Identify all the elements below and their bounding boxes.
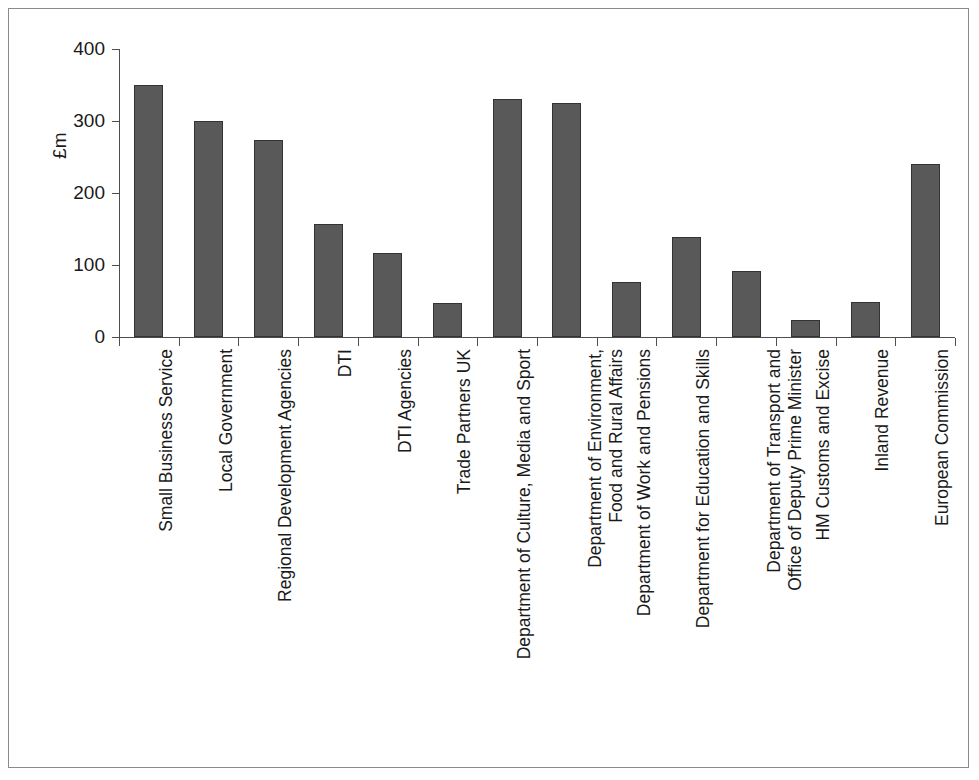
figure-frame: £m 0100200300400 Small Business ServiceL… — [8, 8, 969, 768]
bar-chart: £m 0100200300400 Small Business ServiceL… — [9, 9, 970, 769]
x-axis-category-label: DTI Agencies — [395, 349, 416, 453]
x-axis-tick-mark — [358, 338, 359, 346]
x-axis-tick-mark — [238, 338, 239, 346]
x-axis-tick-mark — [477, 338, 478, 346]
plot-area — [119, 49, 954, 337]
x-axis-tick-mark — [955, 338, 956, 346]
x-axis-category-label: HM Customs and Excise — [813, 349, 834, 541]
x-axis-tick-mark — [298, 338, 299, 346]
bar[interactable] — [373, 253, 402, 337]
bar[interactable] — [552, 103, 581, 337]
y-axis-tick-label: 0 — [59, 327, 105, 346]
x-axis-tick-mark — [656, 338, 657, 346]
x-axis-category-label-line: Local Government — [216, 349, 236, 492]
x-axis-category-label: Department of Culture, Media and Sport — [514, 349, 535, 659]
x-axis-category-label-line: Department for Education and Skills — [693, 349, 713, 628]
x-axis-category-label: Inland Revenue — [872, 349, 893, 472]
x-axis-category-label: Small Business Service — [156, 349, 177, 532]
x-axis-category-label-line: Department of Environment, — [585, 349, 605, 568]
x-axis-category-label-line: Small Business Service — [156, 349, 176, 532]
bar[interactable] — [194, 121, 223, 337]
x-axis-category-label-line: European Commission — [932, 349, 952, 526]
x-axis-category-label: Local Government — [216, 349, 237, 492]
x-axis-tick-mark — [716, 338, 717, 346]
x-axis-category-label: DTI — [335, 349, 356, 377]
x-axis-category-label-line: Trade Partners UK — [454, 349, 474, 494]
y-axis-tick-label: 400 — [59, 39, 105, 58]
bar[interactable] — [911, 164, 940, 337]
x-axis-tick-mark — [537, 338, 538, 346]
bar[interactable] — [672, 237, 701, 337]
x-axis-category-label-line: DTI — [335, 349, 355, 377]
x-axis-category-labels: Small Business ServiceLocal GovernmentRe… — [119, 349, 955, 749]
x-axis-category-label: Department of Work and Pensions — [634, 349, 655, 616]
x-axis-tick-mark — [776, 338, 777, 346]
bar[interactable] — [134, 85, 163, 337]
y-axis-tick-label: 200 — [59, 183, 105, 202]
x-axis-category-label: Department for Education and Skills — [693, 349, 714, 628]
bar[interactable] — [612, 282, 641, 337]
x-axis-category-label: Department of Transport andOffice of Dep… — [764, 349, 806, 591]
x-axis-category-label-line: HM Customs and Excise — [813, 349, 833, 541]
x-axis-category-label-line: Food and Rural Affairs — [606, 349, 627, 568]
x-axis-category-label: European Commission — [932, 349, 953, 526]
x-axis-tick-mark — [895, 338, 896, 346]
bar[interactable] — [433, 303, 462, 337]
x-axis-category-label-line: DTI Agencies — [395, 349, 415, 453]
y-axis-tick-label: 100 — [59, 255, 105, 274]
x-axis-category-label-line: Department of Culture, Media and Sport — [514, 349, 534, 659]
x-axis-category-label-line: Inland Revenue — [872, 349, 892, 472]
x-axis-category-label: Department of Environment,Food and Rural… — [585, 349, 627, 568]
x-axis-tick-mark — [179, 338, 180, 346]
y-axis-tick-mark — [112, 265, 120, 266]
x-axis-category-label-line: Regional Development Agencies — [275, 349, 295, 602]
x-axis-category-label-line: Department of Work and Pensions — [634, 349, 654, 616]
bar[interactable] — [254, 140, 283, 337]
x-axis-category-label: Trade Partners UK — [454, 349, 475, 494]
x-axis-category-label: Regional Development Agencies — [275, 349, 296, 602]
bar[interactable] — [791, 320, 820, 337]
bar[interactable] — [732, 271, 761, 337]
y-axis-tick-mark — [112, 49, 120, 50]
x-axis-category-label-line: Department of Transport and — [764, 349, 784, 573]
x-axis-tick-mark — [119, 338, 120, 346]
bar[interactable] — [493, 99, 522, 337]
y-axis-tick-label: 300 — [59, 111, 105, 130]
bar[interactable] — [851, 302, 880, 337]
bar[interactable] — [314, 224, 343, 337]
y-axis-tick-labels: 0100200300400 — [59, 9, 105, 769]
y-axis-tick-mark — [112, 121, 120, 122]
x-axis-tick-mark — [597, 338, 598, 346]
x-axis-category-label-line: Office of Deputy Prime Minister — [785, 349, 806, 591]
x-axis-tick-mark — [836, 338, 837, 346]
y-axis-tick-mark — [112, 193, 120, 194]
x-axis-tick-mark — [418, 338, 419, 346]
